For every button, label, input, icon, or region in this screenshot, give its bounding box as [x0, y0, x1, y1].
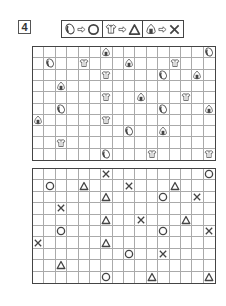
bottom-grid-cell[interactable] [147, 260, 158, 271]
bottom-grid-cell[interactable] [147, 237, 158, 248]
bottom-grid-cell[interactable] [44, 272, 55, 283]
bottom-grid-cell[interactable] [135, 180, 146, 191]
bottom-grid-cell[interactable] [67, 272, 78, 283]
bottom-grid-cell[interactable] [44, 180, 55, 191]
bottom-grid-cell[interactable] [135, 237, 146, 248]
bottom-grid-cell[interactable] [181, 180, 192, 191]
bottom-grid-cell[interactable] [33, 180, 44, 191]
bottom-grid-cell[interactable] [90, 260, 101, 271]
bottom-grid-cell[interactable] [101, 249, 112, 260]
bottom-grid-cell[interactable] [147, 203, 158, 214]
bottom-grid-cell[interactable] [79, 169, 90, 180]
bottom-grid-cell[interactable] [147, 180, 158, 191]
bottom-grid-cell[interactable] [67, 249, 78, 260]
bottom-grid-cell[interactable] [181, 249, 192, 260]
bottom-grid-cell[interactable] [90, 226, 101, 237]
bottom-grid-cell[interactable] [158, 272, 169, 283]
bottom-grid-cell[interactable] [56, 237, 67, 248]
bottom-grid-cell[interactable] [170, 169, 181, 180]
bottom-grid-cell[interactable] [158, 260, 169, 271]
bottom-grid-cell[interactable] [33, 260, 44, 271]
bottom-grid-cell[interactable] [79, 180, 90, 191]
bottom-grid-cell[interactable] [124, 215, 135, 226]
bottom-grid-cell[interactable] [56, 249, 67, 260]
bottom-grid-cell[interactable] [113, 215, 124, 226]
bottom-grid-cell[interactable] [113, 237, 124, 248]
bottom-grid-cell[interactable] [147, 192, 158, 203]
bottom-grid-cell[interactable] [170, 260, 181, 271]
bottom-grid-cell[interactable] [67, 192, 78, 203]
bottom-grid-cell[interactable] [33, 249, 44, 260]
bottom-grid-cell[interactable] [192, 180, 203, 191]
bottom-grid-cell[interactable] [204, 249, 215, 260]
bottom-grid-cell[interactable] [67, 226, 78, 237]
bottom-grid-cell[interactable] [79, 203, 90, 214]
bottom-grid-cell[interactable] [56, 215, 67, 226]
bottom-grid-cell[interactable] [204, 260, 215, 271]
bottom-grid-cell[interactable] [158, 192, 169, 203]
bottom-grid-cell[interactable] [147, 249, 158, 260]
bottom-grid-cell[interactable] [101, 272, 112, 283]
bottom-grid-cell[interactable] [113, 272, 124, 283]
bottom-grid-cell[interactable] [124, 237, 135, 248]
bottom-grid-cell[interactable] [204, 237, 215, 248]
bottom-grid-cell[interactable] [101, 237, 112, 248]
bottom-grid-cell[interactable] [101, 215, 112, 226]
bottom-grid-cell[interactable] [181, 192, 192, 203]
bottom-grid-cell[interactable] [90, 169, 101, 180]
bottom-grid-cell[interactable] [33, 237, 44, 248]
bottom-grid-cell[interactable] [67, 169, 78, 180]
bottom-grid-cell[interactable] [158, 249, 169, 260]
bottom-grid-cell[interactable] [44, 203, 55, 214]
bottom-grid-cell[interactable] [79, 226, 90, 237]
bottom-grid-cell[interactable] [113, 192, 124, 203]
bottom-grid-cell[interactable] [44, 226, 55, 237]
bottom-grid-cell[interactable] [135, 169, 146, 180]
bottom-grid-cell[interactable] [158, 226, 169, 237]
bottom-grid-cell[interactable] [124, 226, 135, 237]
bottom-grid-cell[interactable] [44, 249, 55, 260]
bottom-grid-cell[interactable] [90, 249, 101, 260]
bottom-grid-cell[interactable] [101, 180, 112, 191]
bottom-grid-cell[interactable] [56, 272, 67, 283]
bottom-grid-cell[interactable] [90, 203, 101, 214]
bottom-grid-cell[interactable] [181, 169, 192, 180]
bottom-grid-cell[interactable] [204, 272, 215, 283]
bottom-grid-cell[interactable] [158, 215, 169, 226]
bottom-grid-cell[interactable] [192, 249, 203, 260]
bottom-grid-cell[interactable] [124, 249, 135, 260]
bottom-grid-cell[interactable] [147, 169, 158, 180]
bottom-grid-cell[interactable] [33, 169, 44, 180]
bottom-grid-cell[interactable] [67, 203, 78, 214]
bottom-grid-cell[interactable] [135, 203, 146, 214]
bottom-grid-cell[interactable] [135, 249, 146, 260]
bottom-grid-cell[interactable] [181, 272, 192, 283]
bottom-grid-cell[interactable] [79, 260, 90, 271]
bottom-grid-cell[interactable] [181, 215, 192, 226]
bottom-grid-cell[interactable] [170, 226, 181, 237]
bottom-grid-cell[interactable] [79, 192, 90, 203]
bottom-grid-cell[interactable] [44, 237, 55, 248]
bottom-grid-cell[interactable] [192, 272, 203, 283]
bottom-grid-cell[interactable] [90, 180, 101, 191]
bottom-grid-cell[interactable] [181, 203, 192, 214]
bottom-grid-cell[interactable] [79, 215, 90, 226]
bottom-grid-cell[interactable] [147, 272, 158, 283]
bottom-grid-cell[interactable] [147, 226, 158, 237]
bottom-grid-cell[interactable] [158, 237, 169, 248]
bottom-grid-cell[interactable] [158, 203, 169, 214]
bottom-grid-cell[interactable] [90, 215, 101, 226]
bottom-grid-cell[interactable] [44, 260, 55, 271]
bottom-grid-cell[interactable] [135, 226, 146, 237]
bottom-grid-cell[interactable] [124, 180, 135, 191]
bottom-grid-cell[interactable] [204, 203, 215, 214]
bottom-grid-cell[interactable] [204, 180, 215, 191]
bottom-grid-cell[interactable] [170, 215, 181, 226]
bottom-grid-cell[interactable] [192, 237, 203, 248]
bottom-grid-cell[interactable] [113, 260, 124, 271]
bottom-grid-cell[interactable] [56, 203, 67, 214]
bottom-grid-cell[interactable] [181, 237, 192, 248]
bottom-grid-cell[interactable] [204, 215, 215, 226]
bottom-grid-cell[interactable] [101, 226, 112, 237]
bottom-grid-cell[interactable] [170, 180, 181, 191]
